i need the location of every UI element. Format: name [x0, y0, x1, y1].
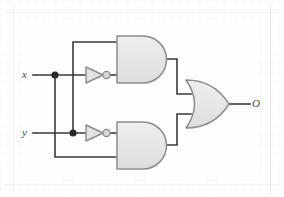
junction-dot-x — [51, 71, 58, 78]
not-gate-icon-x[interactable] — [86, 67, 110, 83]
output-label-o: O — [252, 98, 260, 109]
or-gate-icon[interactable] — [186, 80, 229, 128]
circuit-schematic — [0, 0, 284, 197]
gate-group — [86, 36, 229, 169]
junction-dot-y — [69, 129, 76, 136]
not-gate-icon-y[interactable] — [86, 125, 110, 141]
input-label-y: y — [22, 127, 27, 138]
circuit-diagram-canvas: x y O — [0, 0, 284, 197]
wire-y-branch-up — [73, 42, 116, 133]
wire-and-top-to-or — [167, 59, 191, 94]
and-gate-icon-top[interactable] — [117, 36, 166, 83]
input-label-x: x — [22, 69, 27, 80]
wire-x-branch-down — [55, 75, 116, 157]
wire-and-bottom-to-or — [167, 114, 191, 145]
and-gate-icon-bottom[interactable] — [117, 122, 167, 169]
